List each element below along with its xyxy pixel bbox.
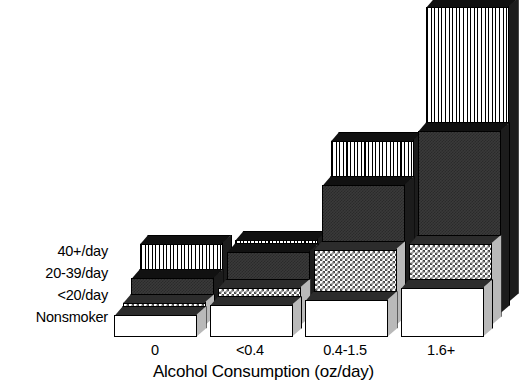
x-tick-0: 0 (110, 342, 200, 358)
bar-nonsmoker-0 (114, 315, 197, 337)
x-tick-1: <0.4 (205, 342, 295, 358)
x-axis-title: Alcohol Consumption (oz/day) (0, 362, 527, 382)
bar-nonsmoker-2 (305, 300, 388, 337)
x-axis-tick-labels: 0 <0.4 0.4-1.5 1.6+ (0, 342, 527, 364)
bar-side-face (483, 279, 494, 337)
bar-front-face (114, 315, 197, 337)
bar-front-face (210, 305, 293, 337)
bar-nonsmoker-3 (401, 288, 484, 337)
plot-area (0, 0, 527, 345)
bar-nonsmoker-1 (210, 305, 293, 337)
x-tick-2: 0.4-1.5 (300, 342, 390, 358)
bar-front-face (401, 288, 484, 337)
bar-front-face (305, 300, 388, 337)
bar-chart: 40+/day 20-39/day <20/day Nonsmoker 0 <0… (0, 0, 527, 391)
x-tick-3: 1.6+ (396, 342, 486, 358)
